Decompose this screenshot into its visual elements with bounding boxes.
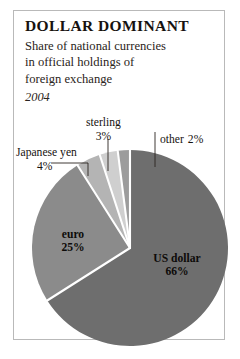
slice-label-japanese-yen-pct: 4% [37, 160, 77, 173]
slice-callout-other: other 2% [160, 129, 203, 147]
slice-label-us-dollar-pct: 66% [140, 265, 214, 278]
slice-callout-japanese-yen: Japanese yen 4% [16, 142, 77, 173]
pie-chart-graphic [0, 0, 240, 359]
slice-callout-sterling: sterling 3% [86, 112, 121, 143]
slice-label-japanese-yen-name: Japanese yen [16, 146, 77, 159]
slice-label-us-dollar: US dollar 66% [140, 252, 214, 278]
slice-label-sterling-name: sterling [86, 116, 121, 129]
slice-label-other-name: other [160, 133, 184, 146]
slice-label-sterling-pct: 3% [86, 130, 121, 143]
slice-label-us-dollar-name: US dollar [140, 252, 214, 265]
slice-label-euro-name: euro [45, 228, 101, 241]
slice-label-other-pct: 2% [188, 133, 203, 146]
pie-chart-figure: DOLLAR DOMINANT Share of national curren… [0, 0, 240, 359]
slice-label-euro: euro 25% [45, 228, 101, 254]
slice-label-euro-pct: 25% [45, 241, 101, 254]
